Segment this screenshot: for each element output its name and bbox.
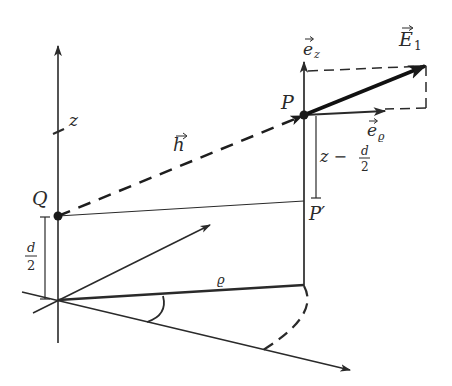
rho-line (58, 285, 304, 300)
svg-text:e: e (303, 39, 313, 59)
rotation-arc (263, 286, 308, 350)
x-axis (22, 292, 350, 370)
svg-text:ϱ: ϱ (378, 130, 385, 143)
frac-den: 2 (361, 160, 369, 174)
d-half-num: d (27, 240, 35, 255)
svg-text:E: E (398, 28, 413, 50)
P-label: P (280, 91, 295, 113)
point-P (300, 111, 309, 120)
Q-Pprime-line (58, 201, 304, 216)
frac-num: d (361, 144, 369, 158)
e-z-label: e z (303, 37, 320, 62)
h-vector-label: h (173, 134, 185, 155)
svg-text:1: 1 (414, 39, 422, 53)
phi-angle-arc (147, 296, 164, 322)
e-rho-label: e ϱ (367, 119, 385, 144)
point-Q (54, 212, 63, 221)
svg-text:z: z (313, 48, 320, 61)
rho-label: ϱ (217, 272, 225, 287)
z-axis-label: z (68, 110, 79, 130)
P-prime-label: P′ (308, 203, 325, 224)
plane-axes (22, 225, 350, 370)
Q-label: Q (32, 187, 48, 209)
E1-label: E 1 (398, 26, 422, 54)
d-half-dimension: d 2 (25, 217, 50, 299)
diagram-canvas: z ϱ h Q P P′ e z E 1 (0, 0, 452, 386)
z-minus-d-half-dimension: z − d 2 (311, 116, 370, 198)
h-vector (58, 116, 302, 216)
E1-vector (304, 66, 425, 115)
z-minus-label: z − (319, 147, 347, 166)
diagram-svg: z ϱ h Q P P′ e z E 1 (0, 0, 452, 386)
d-half-den: 2 (27, 258, 35, 273)
